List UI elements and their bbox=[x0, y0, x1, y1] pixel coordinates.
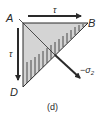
figure-caption: (d) bbox=[47, 102, 58, 112]
stress-wedge-diagram: A B D τ τ −σ2 (d) bbox=[0, 0, 106, 114]
normal-stress-label: −σ2 bbox=[80, 65, 95, 76]
left-shear-label: τ bbox=[9, 49, 13, 59]
top-shear-label: τ bbox=[53, 5, 57, 15]
normal-stress-arrow bbox=[55, 55, 80, 78]
vertex-label-a: A bbox=[5, 12, 13, 24]
vertex-label-b: B bbox=[88, 17, 95, 29]
vertex-label-d: D bbox=[10, 86, 18, 98]
